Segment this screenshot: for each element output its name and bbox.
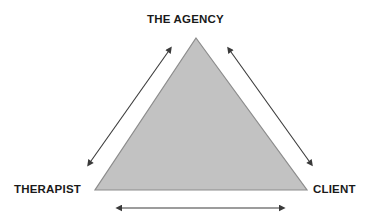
diagram-canvas: THE AGENCY THERAPIST CLIENT [0,0,371,223]
node-label-client: CLIENT [313,184,356,196]
node-label-therapist: THERAPIST [14,184,81,196]
node-label-agency: THE AGENCY [0,14,371,26]
